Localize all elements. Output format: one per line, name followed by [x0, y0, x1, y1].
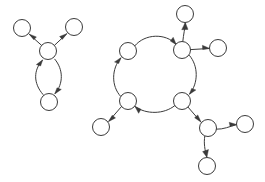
edge-RHUB-RBOT: [203, 136, 209, 157]
node-circle[interactable]: [210, 40, 227, 57]
graph-node-R_TR[interactable]: [174, 42, 191, 59]
edge-line: [136, 106, 175, 113]
arrowhead-icon: [182, 23, 188, 30]
node-circle[interactable]: [120, 43, 137, 60]
node-circle[interactable]: [199, 158, 216, 175]
arrowhead-icon: [203, 150, 209, 158]
node-circle[interactable]: [200, 120, 217, 137]
node-circle[interactable]: [177, 6, 194, 23]
arrowhead-icon: [115, 58, 122, 64]
graph-node-L2[interactable]: [66, 19, 83, 36]
arrowhead-icon: [189, 88, 196, 94]
graph-node-R_FAR[interactable]: [237, 116, 254, 133]
node-circle[interactable]: [174, 93, 191, 110]
graph-node-R_RIGHT[interactable]: [210, 40, 227, 57]
edge-L3-L1: [29, 34, 42, 45]
graph-node-R_BOT[interactable]: [199, 158, 216, 175]
edge-RTR-RTOP: [182, 23, 188, 42]
arrowhead-icon: [36, 60, 43, 66]
node-circle[interactable]: [120, 93, 137, 110]
node-circle[interactable]: [40, 43, 57, 60]
arrowhead-icon: [135, 106, 141, 113]
node-layer: [14, 6, 254, 175]
arrowhead-icon: [108, 115, 115, 121]
node-circle[interactable]: [237, 116, 254, 133]
directed-graph-svg: [0, 0, 265, 182]
edge-RBL-RLEFT: [108, 106, 121, 122]
edge-RTR-RBR: [189, 56, 196, 95]
edge-L4-L3: [36, 60, 43, 95]
edge-line: [190, 56, 197, 94]
node-circle[interactable]: [14, 20, 31, 37]
graph-node-R_TL[interactable]: [120, 43, 137, 60]
graph-node-R_BR[interactable]: [174, 93, 191, 110]
arrowhead-icon: [60, 34, 68, 40]
node-circle[interactable]: [174, 42, 191, 59]
graph-node-R_HUB[interactable]: [200, 120, 217, 137]
edge-L3-L4: [55, 59, 62, 94]
diagram-canvas: [0, 0, 265, 182]
arrowhead-icon: [229, 122, 237, 126]
edge-RBR-RBL: [135, 106, 175, 114]
edge-line: [114, 58, 121, 96]
edge-RTL-RTR: [135, 36, 177, 46]
edge-RTR-RRIGHT: [191, 45, 210, 49]
graph-node-R_BL[interactable]: [120, 93, 137, 110]
node-circle[interactable]: [41, 94, 58, 111]
node-circle[interactable]: [93, 119, 110, 136]
edge-RBL-RTL: [114, 58, 122, 97]
arrowhead-icon: [55, 88, 62, 94]
graph-node-L4[interactable]: [41, 94, 58, 111]
edge-line: [135, 36, 176, 46]
edge-L3-L2: [55, 34, 68, 46]
graph-node-R_TOP[interactable]: [177, 6, 194, 23]
edge-RHUB-RFAR: [216, 122, 237, 129]
edge-RBR-RHUB: [188, 107, 201, 122]
arrowhead-icon: [170, 37, 176, 44]
graph-node-L3[interactable]: [40, 43, 57, 60]
arrowhead-icon: [29, 34, 36, 40]
node-circle[interactable]: [66, 19, 83, 36]
graph-node-L1[interactable]: [14, 20, 31, 37]
graph-node-R_LEFT[interactable]: [93, 119, 110, 136]
